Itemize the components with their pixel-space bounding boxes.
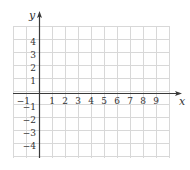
coordinate-plane: −1123456789 4321−1−2−3−4 x y [0,0,190,170]
x-tick-label: 9 [153,96,159,106]
y-tick-label: −1 [23,102,36,112]
x-tick-label: 7 [127,96,133,106]
y-tick-label: 1 [30,76,36,86]
y-tick-label: −4 [23,141,37,151]
x-axis-label: x [179,95,186,108]
x-tick-label: 5 [101,96,107,106]
y-tick-label: −2 [23,115,36,125]
x-tick-label: 3 [75,96,81,106]
y-tick-label: 4 [30,37,36,47]
y-tick-label: −3 [23,128,37,138]
grid-lines [13,26,170,158]
y-tick-label: 2 [30,63,36,73]
y-tick-label: 3 [30,50,36,60]
y-axis-label: y [28,9,36,22]
x-tick-label: 1 [49,96,55,106]
x-tick-label: 8 [140,96,146,106]
x-tick-label: 2 [62,96,68,106]
x-tick-label: 6 [114,96,120,106]
x-tick-label: 4 [88,96,94,106]
